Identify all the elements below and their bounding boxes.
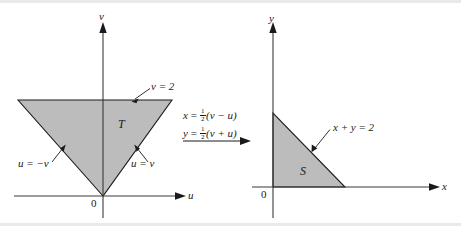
v-equals-2-pointer-line xyxy=(135,89,150,100)
uv-origin-label: 0 xyxy=(91,198,97,209)
v-axis-label: v xyxy=(99,11,104,22)
region-T-shape xyxy=(18,100,172,196)
transform-y-fraction: 12 xyxy=(200,126,206,142)
transform-x-fraction: 12 xyxy=(200,108,206,124)
transform-equation-x: x = 12(v − u) xyxy=(183,108,237,124)
mapping-arrow-head xyxy=(240,137,251,145)
boundary-label-u-equals-v: u = v xyxy=(131,158,154,169)
x-axis-label: x xyxy=(442,181,447,192)
xy-origin-label: 0 xyxy=(261,189,267,200)
transform-x-numerator: 1 xyxy=(200,108,206,115)
u-equals-neg-v-pointer-line xyxy=(52,148,63,162)
x-axis-arrowhead xyxy=(429,183,440,190)
transform-y-denominator: 2 xyxy=(200,133,206,141)
region-S-label: S xyxy=(300,165,306,177)
boundary-label-x-plus-y-equals-2: x + y = 2 xyxy=(333,122,374,133)
transform-x-equals: = xyxy=(191,109,197,121)
transform-equation-y: y = 12(v + u) xyxy=(183,126,237,142)
uv-plane-group xyxy=(14,22,186,218)
v-axis-arrowhead xyxy=(99,22,106,33)
boundary-label-u-equals-neg-v: u = −v xyxy=(18,158,49,169)
xy-plane-group xyxy=(252,22,440,218)
transform-y-numerator: 1 xyxy=(200,126,206,133)
u-axis-arrowhead xyxy=(175,192,186,199)
u-axis-label: u xyxy=(188,190,194,201)
x-plus-y-pointer-line xyxy=(315,130,330,149)
y-axis-label: y xyxy=(269,13,274,24)
boundary-label-v-equals-2: v = 2 xyxy=(151,81,174,92)
transformation-figure: v u 0 T v = 2 u = −v u = v x = 12(v − u)… xyxy=(0,0,461,226)
transform-y-expression: (v + u) xyxy=(206,127,237,139)
transform-x-denominator: 2 xyxy=(200,115,206,123)
transform-y-equals: = xyxy=(191,127,197,139)
region-T-label: T xyxy=(118,118,125,130)
transform-x-expression: (v − u) xyxy=(206,109,237,121)
